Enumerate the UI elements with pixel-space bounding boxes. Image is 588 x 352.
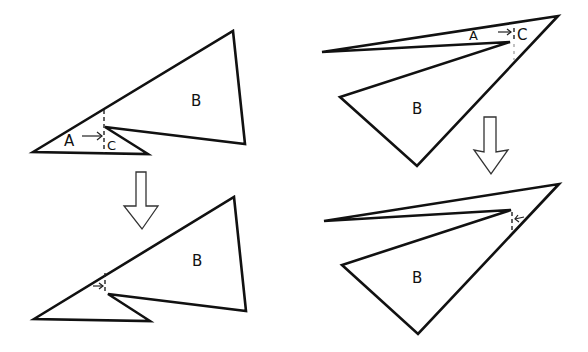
shift-arrow-icon	[93, 283, 103, 289]
down-arrow-icon-right	[474, 117, 508, 174]
diagram-canvas: A B C B A C B	[0, 0, 588, 352]
label-b: B	[412, 100, 422, 118]
label-a: A	[64, 132, 75, 150]
down-arrow-icon-left	[124, 172, 158, 229]
panel-top-right: A C B	[322, 16, 558, 166]
label-c: C	[517, 26, 527, 44]
panel-top-left: A B C	[33, 31, 245, 154]
label-b: B	[191, 92, 201, 110]
shift-arrow-icon	[82, 132, 102, 140]
shape-outline-bottom-right	[324, 184, 559, 334]
label-c: C	[107, 138, 116, 153]
panel-bottom-right: B	[324, 184, 559, 334]
label-a: A	[469, 28, 478, 43]
label-b: B	[412, 269, 422, 287]
label-b: B	[192, 252, 202, 270]
shift-arrow-icon	[498, 29, 511, 35]
